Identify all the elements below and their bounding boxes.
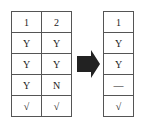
- table-cell: √: [42, 96, 72, 117]
- table-row: —: [104, 75, 134, 96]
- table-cell: Y: [12, 33, 42, 54]
- table-row: √: [104, 96, 134, 117]
- table-row: √ √: [12, 96, 72, 117]
- table-row: Y Y: [12, 54, 72, 75]
- table-cell: Y: [12, 54, 42, 75]
- table-row: 1: [104, 12, 134, 33]
- table-cell: 1: [12, 12, 42, 33]
- right-arrow-icon: [77, 50, 100, 78]
- left-table: 1 2 Y Y Y Y Y N √ √: [11, 11, 72, 117]
- table-row: Y: [104, 33, 134, 54]
- table-cell: Y: [12, 75, 42, 96]
- table-cell: 2: [42, 12, 72, 33]
- table-row: Y: [104, 54, 134, 75]
- table-row: Y Y: [12, 33, 72, 54]
- table-cell: Y: [104, 54, 134, 75]
- table-row: Y N: [12, 75, 72, 96]
- table-cell: —: [104, 75, 134, 96]
- table-cell: Y: [104, 33, 134, 54]
- table-cell: √: [104, 96, 134, 117]
- table-cell: √: [12, 96, 42, 117]
- table-cell: 1: [104, 12, 134, 33]
- table-cell: Y: [42, 54, 72, 75]
- table-cell: Y: [42, 33, 72, 54]
- right-table: 1 Y Y — √: [103, 11, 134, 117]
- table-row: 1 2: [12, 12, 72, 33]
- table-cell: N: [42, 75, 72, 96]
